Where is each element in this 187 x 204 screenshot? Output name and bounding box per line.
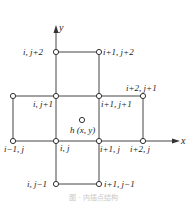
node-ip1-jp1 — [96, 93, 101, 98]
label-ip1-j: i+1, j — [100, 144, 120, 154]
grid-diagram — [0, 0, 187, 204]
node-ip2-jp1 — [140, 93, 145, 98]
label-interpolation-point: h (x, y) — [70, 125, 95, 135]
label-im1-j: i−1, j — [4, 144, 24, 154]
node-im1-j — [10, 138, 15, 143]
label-ip1-jp2: i+1, j+2 — [103, 47, 134, 57]
node-i-jp1 — [53, 93, 58, 98]
label-ip1-jm1: i+1, j−1 — [104, 179, 135, 189]
x-axis-arrow-icon — [172, 139, 180, 144]
label-ip1-jp1: i+1, j+1 — [101, 99, 132, 109]
label-i-jm1: i, j−1 — [27, 179, 47, 189]
node-ip1-j — [96, 138, 101, 143]
label-ip2-jp1: i+2, j+1 — [126, 83, 157, 93]
interpolation-point — [79, 117, 84, 122]
node-ip1-jp2 — [96, 49, 101, 54]
node-ip2-j — [140, 138, 145, 143]
node-i-jp2 — [53, 49, 58, 54]
label-i-jp2: i, j+2 — [23, 47, 43, 57]
label-i-j: i, j — [60, 143, 70, 153]
y-axis-arrow-icon — [54, 25, 59, 33]
node-i-jm1 — [53, 181, 58, 186]
node-i-j — [53, 138, 58, 143]
y-axis-label: y — [59, 23, 63, 33]
label-i-jp1: i, j+1 — [33, 99, 53, 109]
x-axis-label: x — [181, 136, 185, 146]
label-ip2-j: i+2, j — [130, 144, 150, 154]
figure-caption: 图 · 内插点结构 — [0, 192, 187, 202]
node-ip1-jm1 — [96, 181, 101, 186]
node-im1-jp1 — [10, 93, 15, 98]
